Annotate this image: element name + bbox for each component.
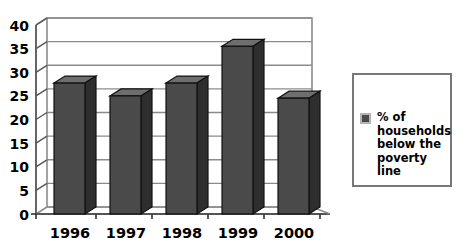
x-axis-labels: 1996 1997 1998 1999 2000	[50, 225, 314, 241]
bar-chart-figure: 0 5 10 15 20 25 30 35 40	[0, 0, 468, 251]
y-tick-label: 10	[10, 159, 30, 175]
y-tick-label: 0	[19, 207, 29, 223]
x-tick-label: 1999	[218, 225, 258, 241]
y-tick-label: 35	[10, 41, 29, 57]
chart-legend: % of households below the poverty line	[352, 73, 452, 187]
x-tick-label: 2000	[274, 225, 314, 241]
y-tick-label: 20	[10, 112, 30, 128]
x-tick-label: 1997	[106, 225, 146, 241]
legend-entry: % of households below the poverty line	[360, 111, 451, 179]
bar-1998	[166, 76, 208, 214]
bar-1999	[222, 39, 264, 214]
y-tick-label: 30	[10, 65, 30, 81]
bar-2000	[278, 91, 320, 214]
y-tick-label: 5	[19, 183, 29, 199]
y-tick-label: 15	[10, 136, 29, 152]
y-axis-labels: 0 5 10 15 20 25 30 35 40	[10, 18, 30, 223]
y-axis-ticks	[31, 18, 47, 214]
x-tick-label: 1996	[50, 225, 90, 241]
legend-entry-label: % of households below the poverty line	[377, 111, 451, 179]
y-tick-label: 25	[10, 88, 29, 104]
chart-svg: 0 5 10 15 20 25 30 35 40	[0, 0, 340, 251]
y-tick-label: 40	[10, 18, 30, 34]
bar-1996	[54, 76, 96, 214]
x-tick-label: 1998	[162, 225, 202, 241]
plot-area: 0 5 10 15 20 25 30 35 40	[0, 0, 340, 251]
legend-color-swatch	[360, 113, 371, 124]
bar-1997	[110, 89, 152, 214]
